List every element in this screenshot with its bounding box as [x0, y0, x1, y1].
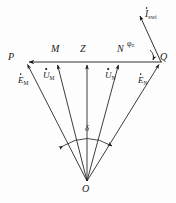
angle-arc-phi-sigma [150, 50, 154, 60]
phasor-subscript-i-swi: swi [148, 14, 157, 20]
node-label-z: Z [80, 44, 86, 54]
phasor-vector-em [28, 65, 88, 182]
phasor-subscript-e-n: N [144, 80, 148, 86]
phasor-diagram-canvas [0, 0, 176, 203]
phasor-vector-un [87, 65, 118, 181]
node-label-q: Q [160, 52, 167, 62]
angle-arc-delta [63, 139, 112, 147]
phasor-vector-en [87, 65, 159, 182]
node-label-m: M [51, 44, 59, 54]
phasor-vector-i-swi [140, 16, 161, 62]
phasor-label-u-m: UM [43, 71, 55, 81]
phasor-symbol-u-n: U [105, 71, 112, 80]
phasor-symbol-u-m: U [43, 71, 50, 80]
node-label-o: O [82, 184, 89, 194]
node-label-n: N [117, 44, 124, 54]
phasor-subscript-u-n: N [112, 75, 116, 81]
phasor-label-u-n: UN [105, 71, 116, 81]
phasor-symbol-e-n: E [138, 76, 144, 85]
phasor-diagram-figure: P M Z N Q O EM UM UN EN Iswi φΣ δ [0, 0, 176, 203]
phasor-label-e-n: EN [138, 76, 148, 86]
phasor-subscript-u-m: M [50, 75, 55, 81]
phasor-symbol-i-swi: I [145, 10, 148, 20]
angle-label-phi-sigma: φΣ [127, 40, 135, 49]
phasor-label-i-swi: Iswi [145, 10, 157, 21]
angle-label-delta: δ [85, 124, 89, 133]
angle-subscript-sigma: Σ [132, 43, 135, 48]
phasor-label-e-m: EM [18, 76, 29, 86]
phasor-subscript-e-m: M [24, 80, 29, 86]
phasor-symbol-e-m: E [18, 76, 24, 85]
phasor-vector-um [58, 65, 87, 181]
node-label-p: P [8, 52, 14, 62]
